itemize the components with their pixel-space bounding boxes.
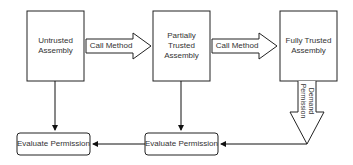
partially-trusted-assembly-label: Partially Trusted Assembly: [153, 11, 210, 81]
call-method-label-2: Call Method: [212, 39, 262, 53]
call-method-label-1: Call Method: [86, 39, 136, 53]
fully-trusted-assembly-label: Fully Trusted Assembly: [280, 11, 337, 81]
untrusted-assembly-label: Untrusted Assembly: [27, 11, 84, 81]
evaluate-permission-mid-label: Evaluate Permission: [145, 133, 218, 155]
evaluate-permission-left-label: Evaluate Permission: [17, 133, 90, 155]
demand-permission-label: Demand Permission: [299, 77, 315, 125]
